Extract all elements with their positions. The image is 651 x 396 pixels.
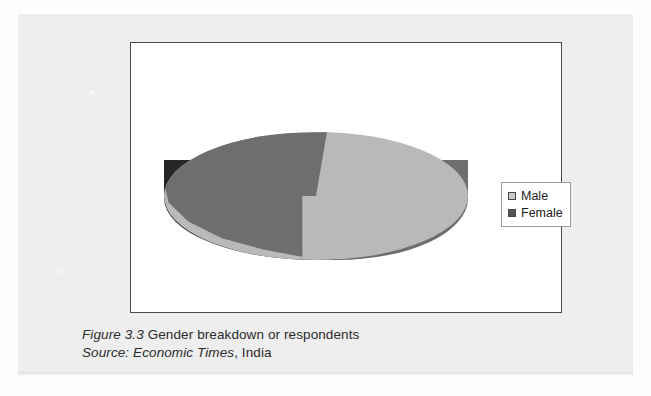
source-region: , India: [234, 345, 271, 360]
caption-source-line: Source: Economic Times, India: [82, 344, 359, 362]
caption-title-line: Figure 3.3 Gender breakdown or responden…: [82, 326, 359, 344]
figure-number: Figure 3.3: [82, 327, 144, 342]
pie-slice-female: [164, 132, 468, 260]
legend-label-female: Female: [521, 206, 563, 220]
legend-item-male[interactable]: Male: [508, 187, 563, 204]
page-bottom-shadow: [18, 372, 633, 376]
chart-legend: Male Female: [501, 182, 571, 227]
pie-top-face: [164, 132, 468, 260]
legend-swatch-male-icon: [508, 192, 516, 200]
source-publication: Economic Times: [133, 345, 234, 360]
source-label: Source:: [82, 345, 129, 360]
chart-frame: Male Female: [130, 42, 562, 313]
pie-chart: [164, 132, 468, 260]
legend-item-female[interactable]: Female: [508, 204, 563, 221]
legend-swatch-female-icon: [508, 209, 516, 217]
legend-label-male: Male: [521, 189, 548, 203]
figure-title: Gender breakdown or respondents: [148, 327, 360, 342]
figure-caption: Figure 3.3 Gender breakdown or responden…: [82, 326, 359, 361]
